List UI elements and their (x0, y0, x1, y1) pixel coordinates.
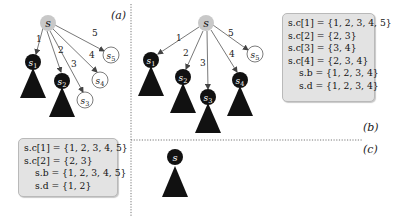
edge-label-b-2: 2 (183, 48, 189, 58)
edge-label-b-1: 1 (176, 33, 182, 43)
box-b-line-1: s.c[1] = {1, 2, 3, 4, 5} (288, 17, 369, 30)
subtree-a-s1 (20, 68, 46, 98)
edge-label-a-2: 2 (58, 45, 64, 55)
box-a-line-3: s.b = {1, 2, 3, 4, 5} (24, 167, 112, 180)
edge-label-a-3: 3 (71, 59, 77, 69)
box-a-line-1: s.c[1] = {1, 2, 3, 4, 5} (24, 142, 112, 155)
subtree-c-s (162, 166, 188, 197)
svg-text:s: s (203, 17, 209, 30)
subtree-b-s2 (170, 83, 196, 113)
edge-label-b-5: 5 (228, 28, 234, 38)
subtree-b-s4 (227, 86, 253, 116)
edge-b-3 (207, 31, 208, 89)
state-box-b: s.c[1] = {1, 2, 3, 4, 5} s.c[2] = {2, 3}… (282, 13, 375, 102)
edge-label-a-4: 4 (89, 50, 95, 60)
box-a-line-2: s.c[2] = {2, 3} (24, 155, 112, 168)
panel-label-a: (a) (111, 9, 126, 22)
box-b-line-6: s.d = {1, 2, 3, 4} (288, 80, 369, 93)
box-b-line-3: s.c[3] = {3, 4} (288, 42, 369, 55)
box-b-line-5: s.b = {1, 2, 3, 4} (288, 67, 369, 80)
panel-label-c: (c) (363, 143, 378, 156)
subtree-b-s1 (138, 66, 164, 96)
edge-label-a-5: 5 (92, 28, 98, 38)
edge-label-b-4: 4 (229, 49, 235, 59)
box-b-line-2: s.c[2] = {2, 3} (288, 30, 369, 43)
panel-label-b: (b) (363, 121, 379, 134)
box-a-line-4: s.d = {1, 2} (24, 180, 112, 193)
svg-text:s: s (45, 17, 51, 30)
edge-label-b-3: 3 (200, 58, 206, 68)
subtree-a-s2 (49, 87, 75, 117)
panel-a-tree: 1 2 3 4 5 s s1 s2 s3 s4 s5 (20, 15, 119, 117)
box-b-line-4: s.c[4] = {2, 3, 4} (288, 55, 369, 68)
svg-text:s: s (172, 152, 177, 163)
panel-c-tree: s (162, 149, 188, 197)
state-box-a: s.c[1] = {1, 2, 3, 4, 5} s.c[2] = {2, 3}… (18, 138, 118, 197)
subtree-b-s3 (195, 103, 221, 133)
panel-b-tree: 1 2 3 4 5 s s1 s2 s3 s4 s5 (138, 15, 263, 133)
edge-label-a-1: 1 (36, 34, 42, 44)
